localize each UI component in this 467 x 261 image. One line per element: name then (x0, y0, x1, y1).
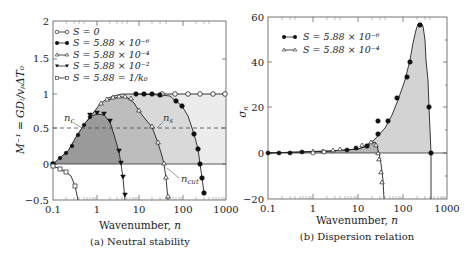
y-tick-label: 40 (251, 57, 264, 68)
legend-b: S = 5.88 × 10⁻⁶ S = 5.88 × 10⁻⁴ (282, 31, 380, 55)
y-tick-label: 60 (251, 12, 264, 23)
y-axis-label-a: M⁻¹ = GDₗ/vₚΔT₀ (14, 65, 26, 155)
legend-item: S = 0 (55, 26, 99, 37)
y-tick-label: 0 (43, 159, 49, 170)
panel-b-dispersion-relation: 0.1 1 10 100 1000 60 40 20 0 −20 Wavenum… (236, 12, 460, 242)
y-tick-label: 1.5 (33, 53, 49, 64)
figure: 0.1 1 10 100 1000 2 1.5 1 0.5 0 −0.5 Wav… (0, 0, 467, 261)
caption-a: (a) Neutral stability (90, 236, 190, 247)
x-axis-label-b: Wavenumber, n (316, 214, 398, 226)
legend-item: S = 5.88 × 10⁻⁶ (282, 31, 380, 42)
x-axis-label-a: Wavenumber, n (99, 219, 181, 231)
y-tick-label: 1 (43, 89, 49, 100)
svg-text:S = 5.88 × 10⁻⁴: S = 5.88 × 10⁻⁴ (73, 49, 150, 60)
annotation-nc: nc (64, 112, 82, 128)
legend-item: S = 5.88 × 10⁻⁴ (282, 44, 380, 55)
svg-text:ncut: ncut (181, 173, 199, 186)
legend-item: S = 5.88 × 10⁻⁶ (55, 37, 150, 48)
region-b-s-6 (268, 23, 431, 153)
x-tick-label: 100 (393, 203, 412, 214)
x-tick-label: 1 (94, 204, 100, 215)
y-axis-label-b: σn (236, 106, 250, 118)
svg-text:S = 5.88 = 1/k₀: S = 5.88 = 1/k₀ (73, 72, 148, 83)
legend-item: S = 5.88 × 10⁻⁴ (55, 49, 150, 60)
x-tick-label: 10 (133, 204, 146, 215)
annotation-ncut: ncut (167, 168, 199, 186)
y-tick-label: 2 (43, 16, 49, 27)
x-tick-label: 100 (173, 204, 192, 215)
x-tick-label: 1 (310, 203, 316, 214)
y-tick-label: 20 (251, 102, 264, 113)
y-tick-label: 0.5 (33, 123, 49, 134)
y-tick-label: 0 (258, 148, 264, 159)
legend-item: S = 5.88 × 10⁻² (55, 60, 150, 71)
x-tick-label: 1000 (434, 203, 459, 214)
svg-text:S = 0: S = 0 (73, 26, 100, 37)
svg-text:S = 5.88 × 10⁻⁶: S = 5.88 × 10⁻⁶ (73, 37, 150, 48)
x-tick-label: 1000 (213, 204, 238, 215)
svg-text:S = 5.88 × 10⁻⁴: S = 5.88 × 10⁻⁴ (303, 44, 380, 55)
svg-text:S = 5.88 × 10⁻⁶: S = 5.88 × 10⁻⁶ (303, 31, 380, 42)
x-tick-label: 10 (352, 203, 365, 214)
y-tick-label: −0.5 (25, 195, 49, 206)
markers-s-1k0 (51, 164, 77, 188)
svg-text:nc: nc (64, 112, 74, 125)
panel-a-neutral-stability: 0.1 1 10 100 1000 2 1.5 1 0.5 0 −0.5 Wav… (14, 16, 239, 247)
svg-text:S = 5.88 × 10⁻²: S = 5.88 × 10⁻² (73, 60, 150, 71)
caption-b: (b) Dispersion relation (300, 231, 415, 242)
legend-a: S = 0 S = 5.88 × 10⁻⁶ S = 5.88 × 10⁻⁴ S … (55, 26, 150, 83)
y-tick-label: −20 (243, 194, 264, 205)
legend-item: S = 5.88 = 1/k₀ (56, 72, 148, 83)
